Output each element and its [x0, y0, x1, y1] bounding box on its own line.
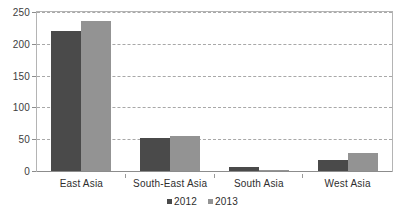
bar	[229, 167, 259, 171]
bar-group	[229, 12, 289, 171]
y-tick-mark	[32, 171, 36, 172]
chart-legend: 20122013	[0, 196, 405, 207]
bar-group	[51, 12, 111, 171]
legend-swatch-icon	[208, 199, 213, 204]
bar	[259, 170, 289, 171]
y-tick-label: 0	[24, 166, 30, 177]
bar	[170, 136, 200, 171]
bars-layer	[37, 12, 392, 171]
y-tick-mark	[32, 139, 36, 140]
legend-item-2013[interactable]: 2013	[208, 196, 238, 207]
bar	[140, 138, 170, 171]
y-tick-mark	[32, 44, 36, 45]
x-tick-label: South-East Asia	[133, 178, 207, 189]
x-tick-label: South Asia	[234, 178, 284, 189]
x-axis: East AsiaSouth-East AsiaSouth AsiaWest A…	[36, 174, 393, 190]
y-tick-mark	[32, 12, 36, 13]
x-tick-label: West Asia	[325, 178, 371, 189]
bar	[81, 21, 111, 171]
x-tick-label: East Asia	[60, 178, 104, 189]
legend-item-2012[interactable]: 2012	[167, 196, 197, 207]
legend-label: 2013	[215, 196, 238, 207]
bar-group	[140, 12, 200, 171]
y-tick-label: 50	[18, 134, 30, 145]
y-axis: 050100150200250	[0, 11, 30, 172]
y-tick-label: 200	[13, 38, 30, 49]
y-tick-mark	[32, 76, 36, 77]
bar	[348, 153, 378, 171]
bar-group	[318, 12, 378, 171]
x-tick-mark	[125, 174, 126, 178]
x-tick-mark	[302, 174, 303, 178]
y-tick-label: 100	[13, 102, 30, 113]
bar	[318, 160, 348, 171]
bar-chart: 050100150200250 East AsiaSouth-East Asia…	[0, 0, 405, 216]
bar	[51, 31, 81, 171]
axis-baseline	[37, 171, 392, 172]
y-tick-mark	[32, 107, 36, 108]
x-tick-mark	[214, 174, 215, 178]
y-tick-label: 250	[13, 7, 30, 18]
y-tick-label: 150	[13, 70, 30, 81]
legend-swatch-icon	[167, 199, 172, 204]
legend-label: 2012	[174, 196, 197, 207]
